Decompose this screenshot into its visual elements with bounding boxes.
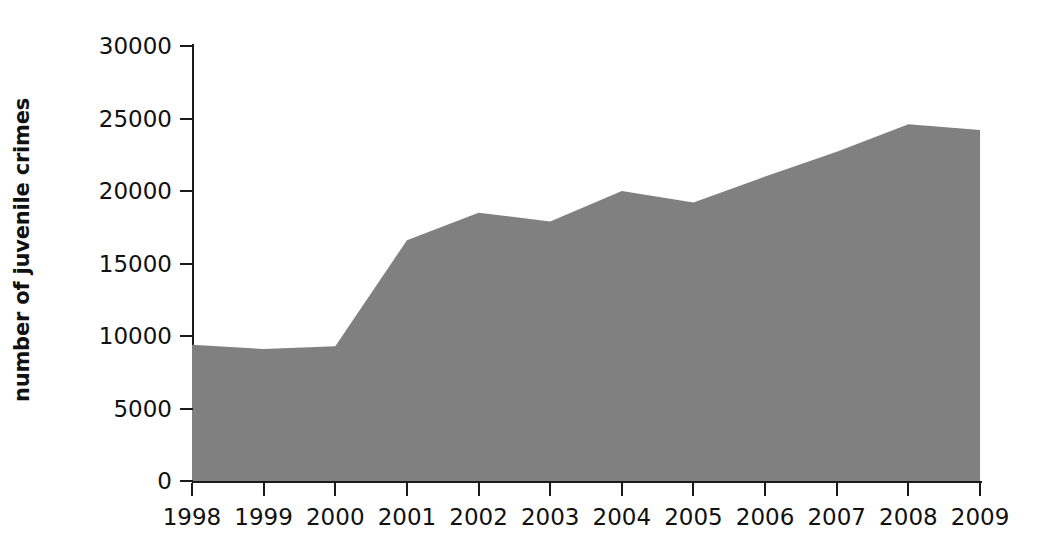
x-tick-mark bbox=[692, 483, 694, 496]
x-tick-mark bbox=[406, 483, 408, 496]
y-axis-tick-labels: 050001000015000200002500030000 bbox=[46, 0, 172, 552]
y-tick-mark bbox=[180, 335, 193, 337]
y-tick-mark bbox=[180, 480, 193, 482]
y-tick-label: 15000 bbox=[54, 251, 172, 277]
y-tick-label: 0 bbox=[54, 468, 172, 494]
y-tick-mark bbox=[180, 263, 193, 265]
y-tick-mark bbox=[180, 408, 193, 410]
x-tick-mark bbox=[334, 483, 336, 496]
area-polygon bbox=[192, 124, 980, 481]
y-tick-label: 30000 bbox=[54, 33, 172, 59]
area-chart: number of juvenile crimes 05000100001500… bbox=[0, 0, 1049, 552]
x-tick-label: 2009 bbox=[935, 504, 1025, 530]
y-axis-title: number of juvenile crimes bbox=[0, 0, 44, 500]
x-tick-mark bbox=[621, 483, 623, 496]
y-tick-label: 25000 bbox=[54, 106, 172, 132]
x-tick-mark bbox=[836, 483, 838, 496]
y-axis-title-text: number of juvenile crimes bbox=[10, 98, 34, 402]
y-tick-mark bbox=[180, 45, 193, 47]
y-tick-mark bbox=[180, 190, 193, 192]
x-tick-mark bbox=[549, 483, 551, 496]
x-tick-mark bbox=[263, 483, 265, 496]
y-tick-mark bbox=[180, 118, 193, 120]
y-tick-label: 20000 bbox=[54, 178, 172, 204]
x-tick-mark bbox=[979, 483, 981, 496]
y-tick-label: 5000 bbox=[54, 396, 172, 422]
x-tick-mark bbox=[764, 483, 766, 496]
x-tick-mark bbox=[191, 483, 193, 496]
y-tick-label: 10000 bbox=[54, 323, 172, 349]
x-tick-mark bbox=[478, 483, 480, 496]
x-tick-mark bbox=[907, 483, 909, 496]
area-series-plot bbox=[192, 46, 981, 482]
